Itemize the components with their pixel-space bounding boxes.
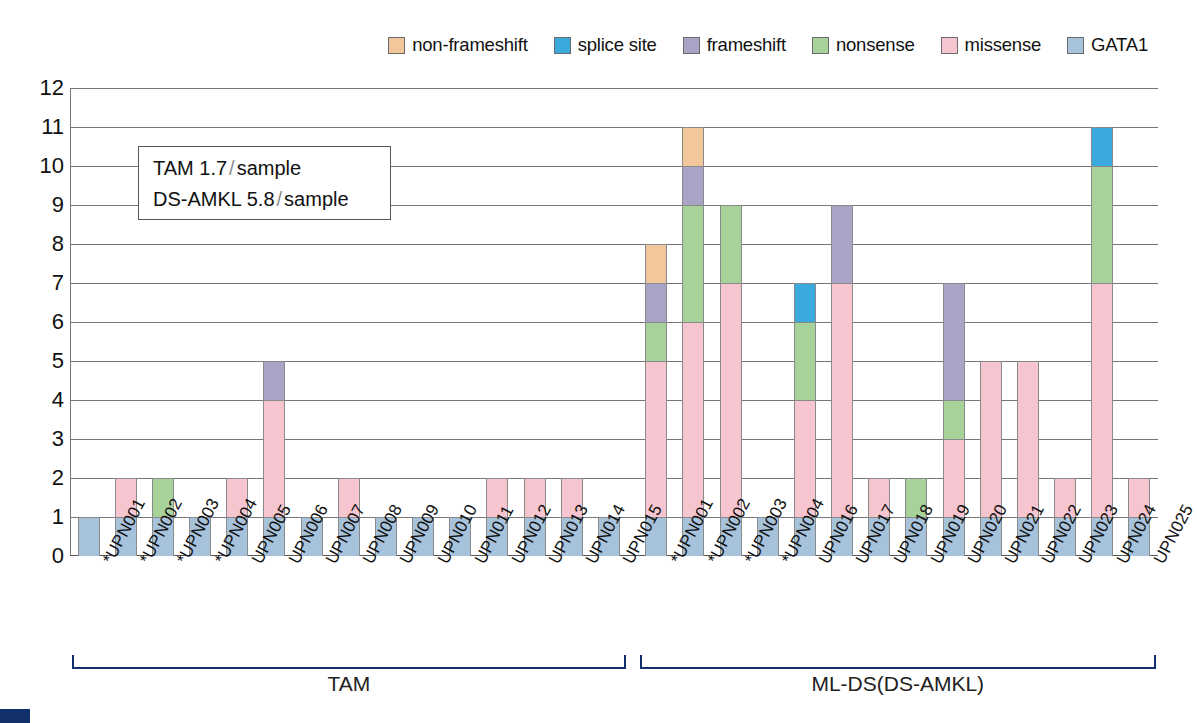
bottom-strip bbox=[0, 715, 1166, 723]
y-tick-label-6: 6 bbox=[4, 309, 64, 335]
bar-segment-non-frameshift bbox=[645, 244, 667, 283]
group-label-tam: TAM bbox=[72, 672, 626, 696]
legend-swatch-icon bbox=[683, 37, 700, 54]
bar-segment-missense bbox=[263, 400, 285, 517]
legend-item-gata1: GATA1 bbox=[1067, 34, 1148, 56]
bar-segment-missense bbox=[1017, 361, 1039, 517]
legend-swatch-icon bbox=[812, 37, 829, 54]
legend-swatch-icon bbox=[388, 37, 405, 54]
annotation-line-tam: TAM 1.7/sample bbox=[153, 153, 390, 184]
bar-segment-frameshift bbox=[645, 283, 667, 322]
bar-segment-nonsense bbox=[682, 205, 704, 322]
bar-segment-nonsense bbox=[943, 400, 965, 439]
legend-label: frameshift bbox=[707, 34, 786, 56]
y-tick-label-3: 3 bbox=[4, 426, 64, 452]
legend-label: nonsense bbox=[836, 34, 915, 56]
y-tick-label-9: 9 bbox=[4, 192, 64, 218]
bar-segment-frameshift bbox=[943, 283, 965, 400]
bar-segment-missense bbox=[1091, 283, 1113, 517]
group-bracket-mlds bbox=[640, 655, 1156, 669]
bar-segment-frameshift bbox=[263, 361, 285, 400]
annotation-slash-2: / bbox=[275, 188, 285, 210]
group-label-mlds: ML-DS(DS-AMKL) bbox=[640, 672, 1156, 696]
y-tick-label-2: 2 bbox=[4, 465, 64, 491]
group-bracket-tam bbox=[72, 655, 626, 669]
corner-mark bbox=[0, 709, 30, 723]
legend-label: GATA1 bbox=[1091, 34, 1148, 56]
y-tick-label-10: 10 bbox=[4, 153, 64, 179]
bar-segment-missense bbox=[831, 283, 853, 517]
y-tick-label-0: 0 bbox=[4, 543, 64, 569]
y-tick-label-11: 11 bbox=[4, 114, 64, 140]
y-tick-label-12: 12 bbox=[4, 75, 64, 101]
legend-label: splice site bbox=[578, 34, 657, 56]
annotation-line-dsamkl: DS-AMKL 5.8/sample bbox=[153, 184, 390, 215]
bar-segment-missense bbox=[720, 283, 742, 517]
annotation-box: TAM 1.7/sample DS-AMKL 5.8/sample bbox=[138, 146, 391, 220]
bar-segment-gata1 bbox=[78, 517, 100, 556]
legend-item-nonsense: nonsense bbox=[812, 34, 915, 56]
bar-segment-missense bbox=[682, 322, 704, 517]
y-tick-label-7: 7 bbox=[4, 270, 64, 296]
legend-item-splice-site: splice site bbox=[554, 34, 657, 56]
annotation-dsamkl-unit: sample bbox=[284, 188, 348, 210]
y-tick-label-1: 1 bbox=[4, 504, 64, 530]
annotation-tam-value: TAM 1.7 bbox=[153, 157, 227, 179]
y-tick-label-5: 5 bbox=[4, 348, 64, 374]
y-tick-label-4: 4 bbox=[4, 387, 64, 413]
annotation-slash-1: / bbox=[227, 157, 237, 179]
bar-segment-non-frameshift bbox=[682, 127, 704, 166]
y-tick-label-8: 8 bbox=[4, 231, 64, 257]
bar-column bbox=[1091, 127, 1113, 556]
chart-legend: non-frameshiftsplice siteframeshiftnonse… bbox=[0, 28, 1166, 62]
bar-segment-nonsense bbox=[794, 322, 816, 400]
legend-swatch-icon bbox=[941, 37, 958, 54]
bar-segment-splice-site bbox=[1091, 127, 1113, 166]
annotation-tam-unit: sample bbox=[237, 157, 301, 179]
legend-label: non-frameshift bbox=[412, 34, 527, 56]
bar-segment-missense bbox=[980, 361, 1002, 517]
legend-item-missense: missense bbox=[941, 34, 1042, 56]
bar-segment-nonsense bbox=[720, 205, 742, 283]
bar-segment-nonsense bbox=[1091, 166, 1113, 283]
bar-column bbox=[682, 127, 704, 556]
x-axis-labels: *UPN001*UPN002*UPN003*UPN004UPN005UPN006… bbox=[70, 558, 1158, 658]
legend-item-frameshift: frameshift bbox=[683, 34, 786, 56]
bar-segment-frameshift bbox=[682, 166, 704, 205]
bar-segment-frameshift bbox=[831, 205, 853, 283]
legend-swatch-icon bbox=[554, 37, 571, 54]
bar-segment-nonsense bbox=[645, 322, 667, 361]
bar-segment-splice-site bbox=[794, 283, 816, 322]
legend-swatch-icon bbox=[1067, 37, 1084, 54]
legend-item-non-frameshift: non-frameshift bbox=[388, 34, 527, 56]
legend-label: missense bbox=[965, 34, 1042, 56]
bar-segment-missense bbox=[645, 361, 667, 517]
bar-column bbox=[78, 517, 100, 556]
annotation-dsamkl-value: DS-AMKL 5.8 bbox=[153, 188, 275, 210]
